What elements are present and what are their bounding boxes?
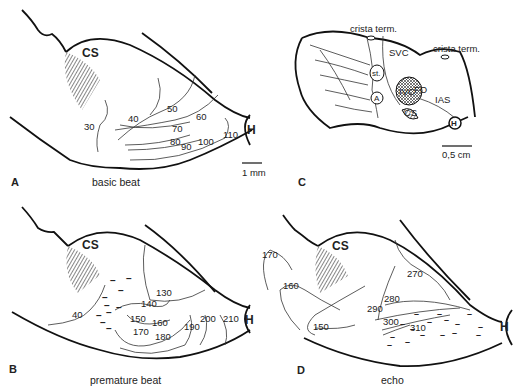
svg-text:–: – [427,317,432,327]
svg-text:–: – [414,309,419,319]
svg-text:–: – [118,285,124,296]
h-label-d: H [500,320,509,334]
svg-text:270: 270 [407,268,423,279]
scale-bar-a: 1 mm [242,167,266,178]
svg-text:–: – [106,323,112,334]
caption-b: premature beat [90,374,161,386]
panel-label-a: A [11,176,19,188]
h-label-c: H [451,119,457,128]
svg-text:–: – [106,307,112,318]
svg-text:–: – [116,302,122,313]
scale-bar-c: 0,5 cm [442,149,471,160]
svg-text:–: – [387,340,392,350]
panel-a: CS H 30 40 50 60 70 80 90 100 110 1 mm A… [10,10,266,188]
svg-text:150: 150 [130,313,146,324]
svg-text:–: – [437,309,442,319]
svg-text:140: 140 [141,298,157,309]
crista-term-label-2: crista term. [433,43,480,54]
svg-text:300: 300 [383,316,399,327]
svg-text:–: – [126,273,132,284]
svg-text:150: 150 [313,321,329,332]
caption-a: basic beat [92,176,140,188]
panel-c: crista term. crista term. SVC st. A IVC … [295,23,480,188]
cs-label: CS [82,46,99,60]
h-label: H [247,123,256,137]
svg-text:310: 310 [410,322,426,333]
svg-text:80: 80 [170,136,181,147]
svg-text:90: 90 [181,141,192,152]
panel-b: CS H ––– ––– –––– 40 130 140 150 160 170… [9,207,254,386]
h-label-b: H [245,313,254,327]
svg-text:–: – [444,315,449,325]
svg-text:290: 290 [367,303,383,314]
svg-text:100: 100 [198,136,214,147]
svg-text:60: 60 [196,111,207,122]
ivc-label: IVC [399,86,415,97]
svg-text:170: 170 [133,326,149,337]
a-label: A [374,94,380,103]
svc-label: SVC [389,47,409,58]
svg-text:–: – [400,319,405,329]
svg-text:–: – [467,309,472,319]
crista-term-label-1: crista term. [350,23,397,34]
ias-label: IAS [435,94,450,105]
svg-text:200: 200 [200,313,216,324]
negative-marks-b: ––– ––– –––– [96,273,132,334]
svg-text:–: – [440,330,445,340]
svg-text:130: 130 [156,287,172,298]
svg-text:280: 280 [384,293,400,304]
cs-label-d: CS [332,239,349,253]
caption-d: echo [381,374,404,386]
svg-text:–: – [476,330,481,340]
svg-text:30: 30 [84,121,95,132]
cs-label-c: CS [404,107,417,118]
svg-text:40: 40 [72,309,83,320]
svg-text:–: – [405,337,410,347]
cs-label-b: CS [82,238,99,252]
svg-text:70: 70 [172,123,183,134]
svg-text:180: 180 [155,331,171,342]
svg-text:190: 190 [184,321,200,332]
svg-text:210: 210 [223,313,239,324]
svg-text:170: 170 [262,249,278,260]
panel-label-d: D [297,364,305,376]
svg-text:50: 50 [167,103,178,114]
panel-label-b: B [9,363,17,375]
svg-text:160: 160 [283,280,299,291]
fo-label: FO [414,84,427,95]
svg-text:–: – [452,328,457,338]
figure-canvas: CS H 30 40 50 60 70 80 90 100 110 1 mm A… [0,0,519,391]
svg-text:110: 110 [223,129,238,140]
svg-text:160: 160 [152,317,168,328]
panel-d: CS H ––– ––– ––– ––– –––– 150 160 170 27… [262,215,512,386]
panel-label-c: C [298,176,306,188]
svg-text:40: 40 [128,113,139,124]
st-label: st. [372,69,380,78]
svg-text:–: – [110,275,116,286]
